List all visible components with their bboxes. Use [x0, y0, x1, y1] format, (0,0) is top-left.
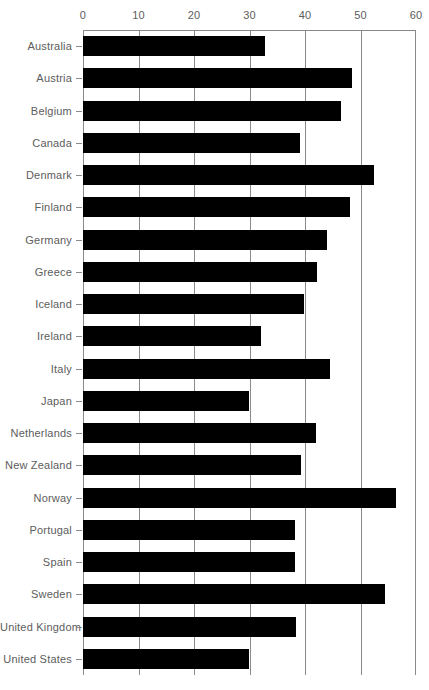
- category-tick: [76, 240, 82, 241]
- category-label: Spain: [0, 556, 72, 568]
- category-tick: [76, 659, 82, 660]
- bar-row: [83, 230, 416, 250]
- category-label: Iceland: [0, 298, 72, 310]
- bar: [83, 584, 385, 604]
- bar-row: [83, 359, 416, 379]
- category-label: New Zealand: [0, 459, 72, 471]
- x-tick-label: 30: [243, 9, 256, 21]
- bar: [83, 359, 330, 379]
- category-label: Austria: [0, 72, 72, 84]
- bar-row: [83, 552, 416, 572]
- category-label: Portugal: [0, 524, 72, 536]
- category-label: United Kingdom: [0, 621, 72, 633]
- bar-row: [83, 584, 416, 604]
- bar-row: [83, 649, 416, 669]
- bar-row: [83, 197, 416, 217]
- bar: [83, 68, 352, 88]
- bar-row: [83, 617, 416, 637]
- bar-row: [83, 455, 416, 475]
- category-label: United States: [0, 653, 72, 665]
- gridline: [305, 30, 306, 675]
- bar: [83, 423, 316, 443]
- category-tick: [76, 78, 82, 79]
- category-tick: [76, 562, 82, 563]
- category-tick: [76, 46, 82, 47]
- plot-area: [83, 30, 416, 675]
- x-tick-label: 60: [410, 9, 423, 21]
- category-tick: [76, 433, 82, 434]
- x-tick-label: 40: [299, 9, 312, 21]
- bar-row: [83, 133, 416, 153]
- bar: [83, 101, 341, 121]
- bar: [83, 197, 350, 217]
- category-label: Sweden: [0, 588, 72, 600]
- category-tick: [76, 304, 82, 305]
- bar: [83, 649, 249, 669]
- category-label: Italy: [0, 363, 72, 375]
- category-tick: [76, 143, 82, 144]
- bar: [83, 294, 304, 314]
- bar-row: [83, 101, 416, 121]
- category-tick: [76, 594, 82, 595]
- category-label: Germany: [0, 234, 72, 246]
- gridline: [361, 30, 362, 675]
- bar-row: [83, 68, 416, 88]
- bar: [83, 326, 261, 346]
- category-tick: [76, 530, 82, 531]
- category-tick: [76, 175, 82, 176]
- gridline: [194, 30, 195, 675]
- category-label: Ireland: [0, 330, 72, 342]
- category-label: Canada: [0, 137, 72, 149]
- bar: [83, 230, 327, 250]
- bar-row: [83, 326, 416, 346]
- bar: [83, 552, 295, 572]
- category-tick: [76, 401, 82, 402]
- category-tick: [76, 336, 82, 337]
- category-label: Netherlands: [0, 427, 72, 439]
- bar: [83, 36, 265, 56]
- bar-row: [83, 262, 416, 282]
- axis-frame-right: [415, 30, 416, 675]
- bar: [83, 488, 396, 508]
- bar: [83, 520, 295, 540]
- category-tick: [76, 111, 82, 112]
- category-tick: [76, 272, 82, 273]
- bar-row: [83, 294, 416, 314]
- x-tick-label: 0: [80, 9, 86, 21]
- category-tick: [76, 627, 82, 628]
- category-label: Finland: [0, 201, 72, 213]
- category-label: Belgium: [0, 105, 72, 117]
- x-tick-label: 10: [132, 9, 145, 21]
- category-label: Norway: [0, 492, 72, 504]
- bar-row: [83, 165, 416, 185]
- x-tick-label: 50: [354, 9, 367, 21]
- bar-row: [83, 423, 416, 443]
- bar-row: [83, 488, 416, 508]
- bar: [83, 133, 300, 153]
- axis-frame-left: [83, 30, 84, 675]
- bar-row: [83, 391, 416, 411]
- category-tick: [76, 498, 82, 499]
- category-tick: [76, 207, 82, 208]
- gridline: [250, 30, 251, 675]
- bar-chart: 0102030405060 AustraliaAustriaBelgiumCan…: [0, 0, 429, 690]
- gridline: [139, 30, 140, 675]
- bar-row: [83, 520, 416, 540]
- category-label: Denmark: [0, 169, 72, 181]
- category-label: Australia: [0, 40, 72, 52]
- bar: [83, 262, 317, 282]
- bar: [83, 391, 249, 411]
- bar: [83, 617, 296, 637]
- category-tick: [76, 465, 82, 466]
- bar: [83, 455, 301, 475]
- category-tick: [76, 369, 82, 370]
- x-tick-label: 20: [188, 9, 201, 21]
- bar: [83, 165, 374, 185]
- bar-row: [83, 36, 416, 56]
- category-label: Japan: [0, 395, 72, 407]
- category-label: Greece: [0, 266, 72, 278]
